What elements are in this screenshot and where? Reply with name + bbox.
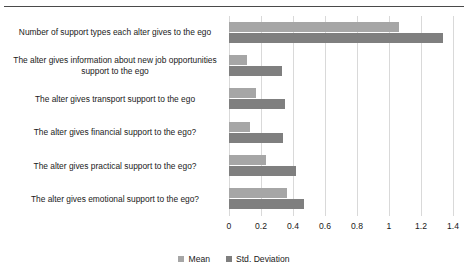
bar-mean-4 (229, 155, 266, 165)
gridline-0.4 (293, 16, 294, 216)
plot-wrapper: Number of support types each alter gives… (0, 16, 468, 216)
bar-mean-1 (229, 55, 247, 65)
category-axis-labels: Number of support types each alter gives… (4, 16, 226, 216)
x-tick-label-0.4: 0.4 (287, 220, 299, 232)
category-label-0: Number of support types each alter gives… (4, 27, 226, 38)
x-tick-label-1.4: 1.4 (447, 220, 459, 232)
gridline-0 (229, 16, 230, 216)
bar-std-deviation-5 (229, 199, 304, 209)
chart-legend: MeanStd. Deviation (0, 254, 468, 264)
bar-std-deviation-2 (229, 99, 285, 109)
category-label-3: The alter gives financial support to the… (4, 127, 226, 138)
bar-std-deviation-3 (229, 133, 283, 143)
bar-mean-5 (229, 188, 287, 198)
x-tick-label-0.2: 0.2 (255, 220, 267, 232)
gridline-0.2 (261, 16, 262, 216)
x-tick-label-0.8: 0.8 (351, 220, 363, 232)
category-label-5: The alter gives emotional support to the… (4, 194, 226, 205)
plot-area (229, 16, 453, 216)
gridline-1.2 (421, 16, 422, 216)
gridline-0.6 (325, 16, 326, 216)
bar-std-deviation-1 (229, 66, 282, 76)
gridline-1.4 (453, 16, 454, 216)
x-tick-label-0: 0 (227, 220, 232, 232)
gridline-0.8 (357, 16, 358, 216)
legend-swatch-icon (178, 256, 184, 262)
bar-mean-2 (229, 88, 256, 98)
bar-std-deviation-0 (229, 33, 443, 43)
chart-figure: Number of support types each alter gives… (0, 0, 468, 279)
x-tick-label-1: 1 (387, 220, 392, 232)
category-label-4: The alter gives practical support to the… (4, 161, 226, 172)
legend-item-mean[interactable]: Mean (178, 254, 210, 264)
legend-item-std-deviation[interactable]: Std. Deviation (226, 254, 290, 264)
legend-swatch-icon (226, 256, 232, 262)
top-divider (4, 6, 464, 7)
bar-mean-3 (229, 122, 250, 132)
x-tick-label-0.6: 0.6 (319, 220, 331, 232)
gridline-1 (389, 16, 390, 216)
category-label-1: The alter gives information about new jo… (4, 55, 226, 77)
legend-label: Std. Deviation (236, 254, 290, 264)
x-tick-label-1.2: 1.2 (415, 220, 427, 232)
bar-std-deviation-4 (229, 166, 296, 176)
legend-label: Mean (188, 254, 210, 264)
category-label-2: The alter gives transport support to the… (4, 94, 226, 105)
x-axis: 00.20.40.60.811.21.4 (229, 220, 453, 234)
bar-mean-0 (229, 22, 399, 32)
